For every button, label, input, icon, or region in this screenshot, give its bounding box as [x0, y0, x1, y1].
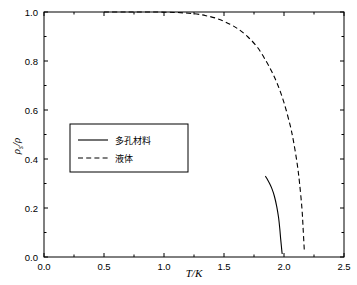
- figure-container: 0.00.51.01.52.02.50.00.20.40.60.81.0 ρs/…: [0, 0, 357, 285]
- x-tick-label: 0.0: [37, 261, 50, 272]
- y-tick-label: 0.4: [25, 154, 38, 165]
- x-axis-title: T/K: [186, 267, 203, 279]
- y-tick-label: 0.6: [25, 105, 38, 116]
- y-tick-label: 0.2: [25, 203, 38, 214]
- legend-label-1: 液体: [115, 153, 133, 164]
- x-tick-label: 1.0: [157, 261, 170, 272]
- y-tick-label: 0.0: [25, 252, 38, 263]
- y-tick-label: 0.8: [25, 56, 38, 67]
- y-tick-label: 1.0: [25, 7, 38, 18]
- legend-box: [70, 124, 188, 172]
- chart-svg: 0.00.51.01.52.02.50.00.20.40.60.81.0 ρs/…: [0, 0, 357, 285]
- y-axis-title-denominator: /ρ: [10, 138, 22, 147]
- legend-label-0: 多孔材料: [115, 135, 151, 146]
- x-tick-label: 0.5: [97, 261, 110, 272]
- x-tick-label: 2.5: [337, 261, 350, 272]
- legend: 多孔材料液体: [70, 124, 188, 172]
- x-tick-label: 1.5: [217, 261, 230, 272]
- x-tick-label: 2.0: [277, 261, 290, 272]
